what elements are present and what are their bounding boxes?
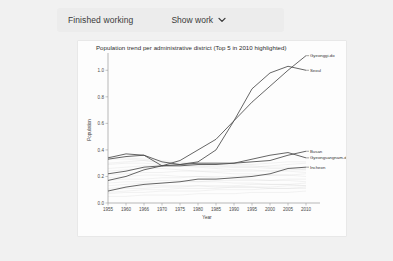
- x-axis-tick-label: 1985: [211, 207, 222, 212]
- x-axis-tick-label: 1980: [193, 207, 204, 212]
- x-axis-tick-label: 1990: [229, 207, 240, 212]
- chart-card: Population trend per administrative dist…: [78, 41, 346, 236]
- highlighted-series-line: [108, 56, 306, 181]
- show-work-label: Show work: [171, 15, 213, 25]
- x-axis-tick-label: 1960: [121, 207, 132, 212]
- y-axis-tick-label: 0.8: [98, 95, 105, 100]
- x-axis-title: Year: [202, 215, 212, 220]
- x-axis-tick-label: 2000: [265, 207, 276, 212]
- y-axis-tick-label: 0.0: [98, 201, 105, 206]
- background-series-line: [108, 186, 306, 193]
- x-axis-tick-label: 2005: [283, 207, 294, 212]
- background-series-line: [108, 179, 306, 186]
- series-label: Gyeongsangnam-do: [310, 155, 346, 160]
- x-axis-tick-label: 1955: [103, 207, 114, 212]
- x-axis-tick-label: 2010: [301, 207, 312, 212]
- background-series-line: [108, 191, 306, 196]
- y-axis-tick-label: 0.6: [98, 121, 105, 126]
- background-series-line: [108, 175, 306, 182]
- chart-plot: 0.00.20.40.60.81.01955196019661970197519…: [78, 41, 346, 236]
- x-axis-tick-label: 1975: [175, 207, 186, 212]
- y-axis-tick-label: 0.4: [98, 148, 105, 153]
- series-label: Gyeonggi-do: [310, 53, 335, 58]
- chevron-down-icon: [218, 17, 226, 23]
- finished-working-bar: Finished working Show work: [57, 8, 284, 32]
- series-label: Seoul: [310, 68, 321, 73]
- y-axis-title: Population: [87, 119, 92, 141]
- y-axis-tick-label: 0.2: [98, 174, 105, 179]
- series-label: Incheon: [310, 165, 326, 170]
- x-axis-tick-label: 1966: [139, 207, 150, 212]
- finished-working-label: Finished working: [68, 15, 133, 25]
- background-series-line: [108, 186, 306, 189]
- show-work-toggle[interactable]: Show work: [171, 15, 226, 25]
- series-label: Busan: [310, 149, 323, 154]
- y-axis-tick-label: 1.0: [98, 68, 105, 73]
- screen-root: Finished working Show work Population tr…: [0, 0, 393, 261]
- x-axis-tick-label: 1970: [157, 207, 168, 212]
- line-chart-svg: 0.00.20.40.60.81.01955196019661970197519…: [78, 41, 346, 236]
- x-axis-tick-label: 1995: [247, 207, 258, 212]
